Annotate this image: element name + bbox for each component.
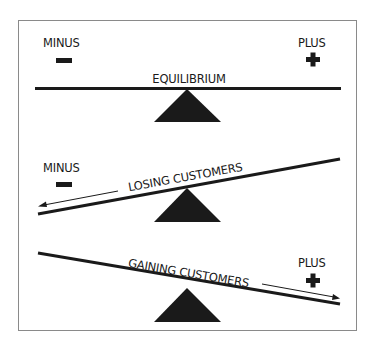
beam-label-losing: LOSING CUSTOMERS [127,160,244,194]
minus-icon [56,58,72,63]
panel-gaining-customers: PLUS GAINING CUSTOMERS [38,253,340,322]
panel-losing-customers: MINUS LOSING CUSTOMERS [38,159,340,222]
arrow-left-icon [38,191,118,207]
minus-label: MINUS [43,161,80,175]
fulcrum-triangle [154,288,221,322]
minus-icon [56,182,72,187]
plus-icon [306,53,320,67]
plus-label: PLUS [298,36,326,50]
fulcrum-triangle [154,188,221,222]
minus-label: MINUS [43,36,80,50]
plus-icon [306,274,320,288]
seesaw-diagram: MINUS PLUS EQUILIBRIUM MINUS LOSING CUST… [0,0,372,345]
panel-equilibrium: MINUS PLUS EQUILIBRIUM [35,36,341,122]
beam-label-equilibrium: EQUILIBRIUM [152,72,225,86]
fulcrum-triangle [154,89,221,122]
plus-label: PLUS [298,256,326,270]
